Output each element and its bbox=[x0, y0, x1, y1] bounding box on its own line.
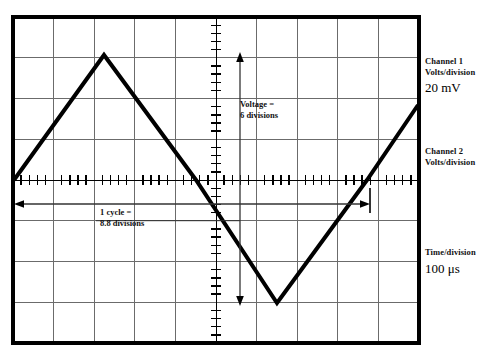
channel2-readout: Channel 2 Volts/division bbox=[425, 146, 475, 170]
time-value: 100 μs bbox=[425, 261, 476, 276]
time-per-division-readout: Time/division 100 μs bbox=[425, 247, 476, 276]
cycle-measurement-label: 1 cycle = 8.8 divisions bbox=[100, 207, 144, 228]
cycle-label-line1: 1 cycle = bbox=[100, 207, 144, 218]
voltage-measurement-arrow bbox=[236, 52, 244, 306]
channel1-readout: Channel 1 Volts/division 20 mV bbox=[425, 56, 475, 95]
channel1-title: Channel 1 bbox=[425, 56, 475, 67]
channel1-value: 20 mV bbox=[425, 80, 475, 95]
channel2-title: Channel 2 bbox=[425, 146, 475, 157]
cycle-label-line2: 8.8 divisions bbox=[100, 218, 144, 229]
voltage-measurement-label: Voltage = 6 divisions bbox=[240, 99, 278, 120]
voltage-label-line1: Voltage = bbox=[240, 99, 278, 110]
oscilloscope-figure: Voltage = 6 divisions 1 cycle = 8.8 divi… bbox=[0, 0, 491, 354]
channel2-units: Volts/division bbox=[425, 157, 475, 168]
channel1-units: Volts/division bbox=[425, 67, 475, 78]
voltage-label-line2: 6 divisions bbox=[240, 110, 278, 121]
scope-graticule-svg bbox=[0, 0, 491, 354]
cycle-measurement-arrow bbox=[14, 188, 370, 213]
time-title: Time/division bbox=[425, 247, 476, 258]
